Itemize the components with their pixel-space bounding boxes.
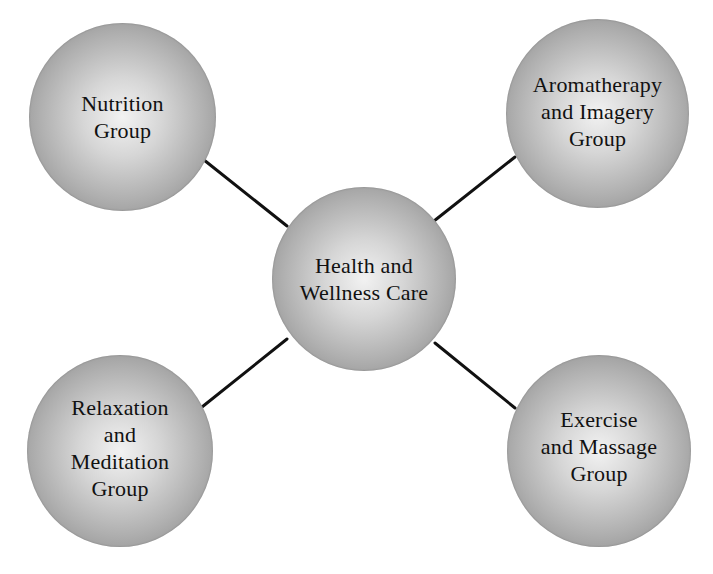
node-exercise: Exercise and Massage Group (507, 355, 691, 547)
node-label: Aromatherapy and Imagery Group (533, 71, 662, 152)
node-aromatherapy: Aromatherapy and Imagery Group (506, 19, 689, 208)
node-nutrition: Nutrition Group (29, 23, 216, 211)
node-label: Nutrition Group (81, 90, 163, 144)
edge-center-aromatherapy (434, 157, 515, 221)
edge-center-exercise (435, 343, 515, 408)
node-relaxation: Relaxation and Meditation Group (27, 355, 213, 547)
node-label: Exercise and Massage Group (541, 406, 657, 487)
node-label: Health and Wellness Care (300, 252, 429, 306)
edge-center-nutrition (204, 160, 287, 226)
edge-center-relaxation (202, 339, 287, 407)
node-label: Relaxation and Meditation Group (71, 394, 170, 502)
diagram-canvas: Nutrition Group Aromatherapy and Imagery… (0, 0, 713, 574)
node-health-wellness-center: Health and Wellness Care (272, 187, 456, 371)
